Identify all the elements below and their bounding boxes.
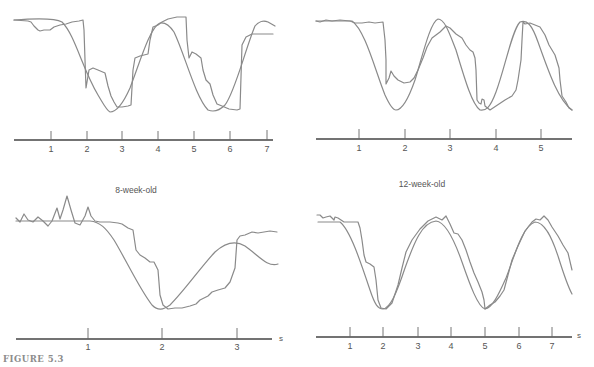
tick-label: 6 <box>516 341 521 351</box>
tick-label: 2 <box>159 342 164 352</box>
tick-label: 6 <box>227 144 232 154</box>
x-axis-unit-label: s <box>279 334 283 343</box>
x-axis-tick-labels: 1 2 3 4 5 <box>356 143 543 153</box>
eye-tracking-curve <box>317 215 572 309</box>
tick-label: 7 <box>264 144 269 154</box>
panel-caption-12-week-old: 12-week-old <box>399 179 446 189</box>
tick-label: 4 <box>155 144 160 154</box>
panel-caption-8-week-old: 8-week-old <box>115 185 157 195</box>
eye-tracking-curve <box>14 17 273 110</box>
x-axis-unit-label: s <box>577 331 581 340</box>
tick-label: 5 <box>482 341 487 351</box>
tick-label: 3 <box>119 144 124 154</box>
tick-label: 3 <box>447 143 452 153</box>
x-axis-tick-labels: 1 2 3 4 5 6 7 <box>347 341 554 351</box>
target-sinusoid-curve <box>16 221 278 309</box>
eye-tracking-curve <box>316 20 572 110</box>
x-axis-ticks <box>359 129 541 139</box>
tick-label: 5 <box>191 144 196 154</box>
panel-top-right: 1 2 3 4 5 12-week-old <box>316 19 572 189</box>
figure-label: FIGURE 5.3 <box>3 354 64 364</box>
target-sinusoid-curve <box>318 221 572 309</box>
target-sinusoid-curve <box>14 19 275 112</box>
x-axis-tick-labels: 1 2 3 4 5 6 7 <box>48 144 269 154</box>
tick-label: 1 <box>85 342 90 352</box>
tick-label: 2 <box>402 143 407 153</box>
tick-label: 7 <box>549 341 554 351</box>
x-axis-ticks <box>88 328 237 339</box>
x-axis-ticks <box>51 130 267 140</box>
figure-canvas: 1 2 3 4 5 6 7 1 2 3 4 5 12-week-old <box>0 0 594 367</box>
tick-label: 3 <box>415 341 420 351</box>
tick-label: 2 <box>84 144 89 154</box>
tick-label: 1 <box>347 341 352 351</box>
tick-label: 3 <box>234 342 239 352</box>
x-axis-ticks <box>350 327 552 337</box>
target-sinusoid-curve <box>316 19 572 110</box>
tick-label: 2 <box>380 341 385 351</box>
panel-top-left: 1 2 3 4 5 6 7 <box>14 17 275 154</box>
tick-label: 4 <box>448 341 453 351</box>
x-axis-tick-labels: 1 2 3 <box>85 342 239 352</box>
eye-tracking-curve <box>16 196 277 309</box>
tick-label: 5 <box>538 143 543 153</box>
tick-label: 4 <box>493 143 498 153</box>
panel-bottom-right: 1 2 3 4 5 6 7 s <box>316 215 581 351</box>
panel-bottom-left: 8-week-old 1 2 3 s <box>16 185 283 352</box>
tick-label: 1 <box>356 143 361 153</box>
tick-label: 1 <box>48 144 53 154</box>
